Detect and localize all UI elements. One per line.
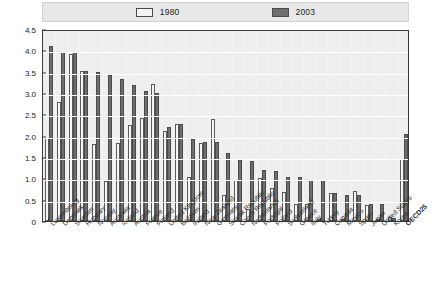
- legend-label-2003: 2003: [296, 7, 316, 17]
- gridline-vertical: [221, 31, 222, 221]
- bar-2003: [132, 85, 136, 221]
- y-axis-tick-mark: [42, 94, 46, 95]
- gridline-horizontal: [43, 74, 408, 75]
- bar-2003: [49, 46, 53, 221]
- bar-group: [90, 31, 102, 221]
- legend-swatch-1980-icon: [136, 8, 153, 17]
- bars-layer: [43, 31, 408, 221]
- y-axis-tick-mark: [42, 200, 46, 201]
- gridline-vertical: [102, 31, 103, 221]
- y-axis-tick-mark: [42, 136, 46, 137]
- gridline-vertical: [327, 31, 328, 221]
- y-axis-tick-mark: [42, 115, 46, 116]
- bar-group: [339, 31, 351, 221]
- bar-group: [114, 31, 126, 221]
- gridline-horizontal: [43, 180, 408, 181]
- plot-area: [42, 30, 409, 222]
- gridline-vertical: [173, 31, 174, 221]
- bar-group: [138, 31, 150, 221]
- y-axis: 4.54.03.53.02.52.01.51.00.50: [0, 30, 42, 222]
- bar-group: [398, 31, 410, 221]
- bar-group: [292, 31, 304, 221]
- gridline-vertical: [90, 31, 91, 221]
- bar-group: [161, 31, 173, 221]
- bar-2003: [321, 180, 325, 221]
- bar-2003: [404, 134, 408, 221]
- legend-label-1980: 1980: [160, 7, 180, 17]
- gridline-horizontal: [43, 95, 408, 96]
- gridline-vertical: [126, 31, 127, 221]
- gridline-vertical: [398, 31, 399, 221]
- y-axis-tick-label: 4.5: [25, 26, 36, 35]
- gridline-vertical: [138, 31, 139, 221]
- bar-group: [150, 31, 162, 221]
- y-axis-tick-label: 2.0: [25, 132, 36, 141]
- y-axis-tick-mark: [42, 30, 46, 31]
- bar-group: [327, 31, 339, 221]
- bar-group: [55, 31, 67, 221]
- bar-group: [374, 31, 386, 221]
- bar-group: [303, 31, 315, 221]
- bar-group: [232, 31, 244, 221]
- gridline-vertical: [232, 31, 233, 221]
- gridline-horizontal: [43, 116, 408, 117]
- y-axis-tick-label: 1.5: [25, 154, 36, 163]
- gridline-vertical: [315, 31, 316, 221]
- bar-group: [386, 31, 398, 221]
- gridline-vertical: [374, 31, 375, 221]
- gridline-vertical: [185, 31, 186, 221]
- gridline-vertical: [351, 31, 352, 221]
- y-axis-tick-label: 0: [32, 218, 36, 227]
- bar-group: [221, 31, 233, 221]
- gridline-horizontal: [43, 138, 408, 139]
- y-axis-tick-mark: [42, 51, 46, 52]
- gridline-vertical: [209, 31, 210, 221]
- bar-group: [280, 31, 292, 221]
- bar-2003: [84, 71, 88, 221]
- y-axis-tick-label: 0.5: [25, 196, 36, 205]
- y-axis-tick-label: 2.5: [25, 111, 36, 120]
- gridline-vertical: [150, 31, 151, 221]
- bar-group: [244, 31, 256, 221]
- gridline-vertical: [244, 31, 245, 221]
- gridline-vertical: [114, 31, 115, 221]
- bar-group: [173, 31, 185, 221]
- gridline-horizontal: [43, 52, 408, 53]
- bar-group: [315, 31, 327, 221]
- y-axis-tick-label: 4.0: [25, 47, 36, 56]
- bar-chart: 1980 2003 4.54.03.53.02.52.01.51.00.50 L…: [0, 0, 432, 288]
- bar-group: [351, 31, 363, 221]
- y-axis-tick-label: 3.0: [25, 90, 36, 99]
- gridline-vertical: [79, 31, 80, 221]
- gridline-vertical: [161, 31, 162, 221]
- gridline-vertical: [303, 31, 304, 221]
- gridline-vertical: [67, 31, 68, 221]
- y-axis-tick-mark: [42, 72, 46, 73]
- bar-group: [102, 31, 114, 221]
- gridline-vertical: [339, 31, 340, 221]
- y-axis-tick-label: 1.0: [25, 175, 36, 184]
- x-axis-labels: LuxembourgDenmarkSwedenHungaryNorwayAust…: [42, 222, 409, 288]
- y-axis-tick-label: 3.5: [25, 68, 36, 77]
- bar-group: [126, 31, 138, 221]
- y-axis-tick-mark: [42, 222, 46, 223]
- bar-group: [79, 31, 91, 221]
- gridline-vertical: [280, 31, 281, 221]
- gridline-vertical: [292, 31, 293, 221]
- gridline-horizontal: [43, 159, 408, 160]
- bar-group: [67, 31, 79, 221]
- gridline-vertical: [55, 31, 56, 221]
- chart-legend: 1980 2003: [42, 2, 409, 22]
- legend-entry-1980: 1980: [136, 7, 180, 17]
- bar-group: [363, 31, 375, 221]
- gridline-vertical: [363, 31, 364, 221]
- legend-swatch-2003-icon: [272, 8, 289, 17]
- y-axis-tick-mark: [42, 158, 46, 159]
- y-axis-tick-mark: [42, 179, 46, 180]
- gridline-vertical: [386, 31, 387, 221]
- bar-group: [43, 31, 55, 221]
- bar-group: [209, 31, 221, 221]
- bar-2003: [108, 75, 112, 221]
- legend-entry-2003: 2003: [272, 7, 316, 17]
- bar-2003: [120, 79, 124, 221]
